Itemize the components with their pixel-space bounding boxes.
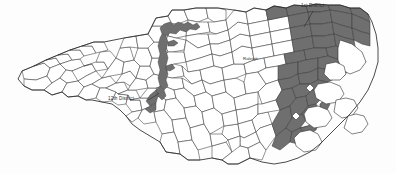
label-district-12: 12th District [108, 97, 134, 102]
county-group-west [22, 34, 154, 105]
county-group-piedmont [126, 6, 294, 164]
label-city-raleigh: Raleigh [243, 57, 258, 61]
north-carolina-district-map: 1st District 12th District Raleigh [0, 0, 396, 174]
map-graphic [0, 0, 396, 174]
label-district-1: 1st District [301, 4, 324, 9]
